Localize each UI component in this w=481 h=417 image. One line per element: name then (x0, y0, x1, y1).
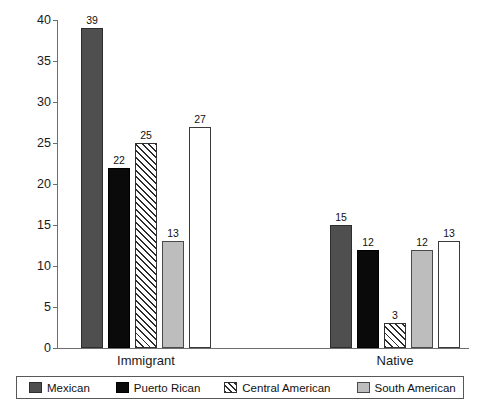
y-tick-label: 5 (29, 301, 51, 313)
bar-native-southamerican (411, 250, 433, 348)
y-tick-mark (53, 61, 57, 62)
y-tick-mark (53, 102, 57, 103)
y-tick-label: 20 (29, 178, 51, 190)
bar-native-otherlatino (438, 241, 460, 348)
legend-swatch-icon (224, 382, 237, 393)
y-tick-mark (53, 143, 57, 144)
bar-value-label: 39 (75, 15, 109, 26)
legend-label: Mexican (47, 382, 90, 394)
y-tick-mark (53, 266, 57, 267)
bar-chart: Percentage of 16-to-19 Year Olds 0510152… (0, 0, 481, 417)
y-tick-mark (53, 307, 57, 308)
legend-swatch-icon (29, 382, 42, 393)
bar-native-puertorican (357, 250, 379, 348)
y-tick-mark (53, 348, 57, 349)
legend: MexicanPuerto RicanCentral AmericanSouth… (16, 376, 464, 399)
bar-immigrant-southamerican (162, 241, 184, 348)
legend-item-mexican[interactable]: Mexican (29, 377, 90, 398)
y-tick-label: 25 (29, 137, 51, 149)
x-axis-line (57, 348, 469, 349)
legend-swatch-icon (116, 382, 129, 393)
legend-item-southamerican[interactable]: South American (357, 377, 456, 398)
legend-label: Puerto Rican (134, 382, 200, 394)
bar-value-label: 27 (183, 114, 217, 125)
legend-label: South American (375, 382, 456, 394)
legend-item-centralamerican[interactable]: Central American (224, 377, 330, 398)
bar-native-centralamerican (384, 323, 406, 348)
group-label-native: Native (315, 353, 475, 368)
y-tick-mark (53, 20, 57, 21)
bar-value-label: 13 (156, 228, 190, 239)
bar-value-label: 3 (378, 310, 412, 321)
bar-value-label: 25 (129, 130, 163, 141)
plot-area: 0510152025303540 3922251327151231213 (57, 20, 469, 349)
bar-native-mexican (330, 225, 352, 348)
group-label-immigrant: Immigrant (66, 353, 226, 368)
y-tick-mark (53, 225, 57, 226)
bar-value-label: 12 (351, 237, 385, 248)
y-tick-label: 0 (29, 342, 51, 354)
bar-immigrant-mexican (81, 28, 103, 348)
bar-value-label: 22 (102, 155, 136, 166)
y-tick-label: 40 (29, 14, 51, 26)
bar-immigrant-otherlatino (189, 127, 211, 348)
bar-immigrant-puertorican (108, 168, 130, 348)
legend-swatch-icon (357, 382, 370, 393)
y-tick-label: 35 (29, 55, 51, 67)
bar-immigrant-centralamerican (135, 143, 157, 348)
bar-value-label: 13 (432, 228, 466, 239)
legend-item-puertorican[interactable]: Puerto Rican (116, 377, 200, 398)
y-tick-label: 15 (29, 219, 51, 231)
bar-value-label: 15 (324, 212, 358, 223)
y-tick-label: 10 (29, 260, 51, 272)
legend-label: Central American (242, 382, 330, 394)
y-tick-mark (53, 184, 57, 185)
y-tick-label: 30 (29, 96, 51, 108)
y-axis-line (57, 20, 58, 349)
